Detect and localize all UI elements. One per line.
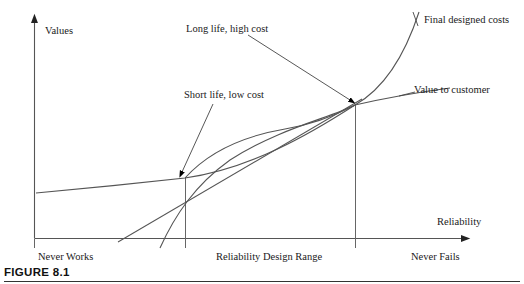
label-final-designed-costs: Final designed costs [424,15,509,26]
label-value-to-customer: Value to customer [414,85,490,96]
figure-caption: FIGURE 8.1 [4,266,70,278]
leader-short-life [182,104,213,172]
x-region-label-reliability-design-range: Reliability Design Range [216,252,322,263]
x-axis-title: Reliability [437,217,481,228]
x-region-label-never-works: Never Works [38,252,93,263]
leader-final-designed-costs [413,12,418,26]
line-short-to-long-life [118,99,362,242]
y-axis-title: Values [45,26,73,37]
annotation-short-life: Short life, low cost [184,90,264,101]
plot-area [0,0,524,284]
figure-8-1: Values Reliability Long life, high cost … [0,0,524,284]
x-region-label-never-fails: Never Fails [411,252,460,263]
annotation-long-life: Long life, high cost [186,24,268,35]
curve-final-designed-costs [160,12,419,248]
caption-divider [4,281,520,282]
